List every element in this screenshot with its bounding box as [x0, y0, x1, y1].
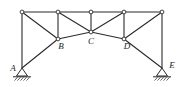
truss-diagram-figure: A B C D E	[0, 0, 185, 87]
truss-diagram-canvas: A B C D E	[0, 0, 185, 87]
joint-label-d: D	[123, 41, 131, 51]
joint-marker-c	[89, 30, 93, 34]
joint-label-a: A	[9, 63, 16, 73]
joint-marker-t1	[20, 10, 24, 14]
joint-label-e: E	[168, 60, 175, 70]
joint-label-b: B	[58, 41, 64, 51]
joint-label-c: C	[88, 36, 95, 46]
joint-marker-t3	[89, 10, 93, 14]
joint-marker-t4	[122, 10, 126, 14]
joint-marker-t5	[160, 10, 164, 14]
joint-marker-t2	[56, 10, 60, 14]
